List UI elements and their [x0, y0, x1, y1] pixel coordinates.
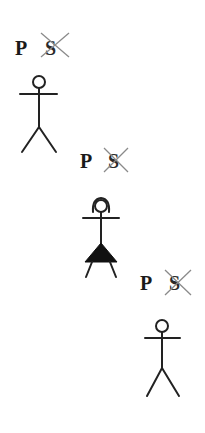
legs — [22, 127, 56, 152]
head — [33, 76, 45, 88]
stick-figure-male — [145, 320, 180, 396]
stick-figure-female — [83, 198, 119, 277]
left-leg — [86, 262, 92, 277]
diagram-canvas: P S P S P S — [0, 0, 205, 433]
group-2: P S — [80, 148, 128, 277]
label-p: P — [140, 272, 152, 294]
stick-figure-male — [20, 76, 57, 152]
right-leg — [110, 262, 116, 277]
skirt — [85, 243, 117, 262]
head — [156, 320, 168, 332]
legs — [147, 368, 179, 396]
label-p: P — [80, 150, 92, 172]
group-3: P S — [140, 270, 191, 396]
label-p: P — [15, 37, 27, 59]
head — [95, 200, 107, 212]
group-1: P S — [15, 33, 69, 152]
